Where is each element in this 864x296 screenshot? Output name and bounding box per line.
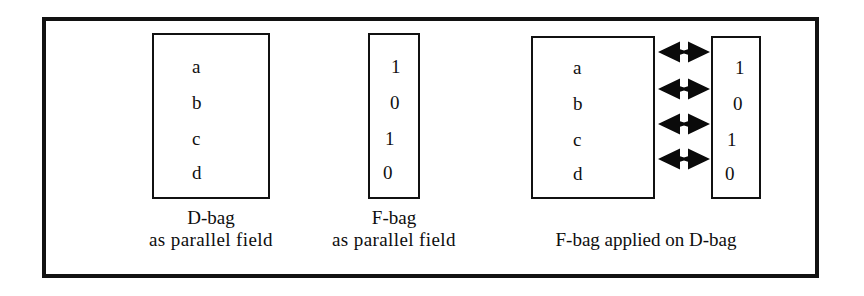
double-headed-arrow-0: [658, 41, 710, 63]
applied-f-bag-item-2: 1: [727, 130, 737, 149]
d-bag-box: a b c d: [152, 33, 270, 199]
double-headed-arrow-2: [658, 113, 710, 135]
applied-caption: F-bag applied on D-bag: [501, 229, 791, 251]
d-bag-item-1: b: [192, 93, 202, 112]
d-bag-item-0: a: [192, 57, 200, 76]
f-bag-item-2: 1: [385, 129, 395, 148]
applied-f-bag-item-1: 0: [733, 94, 743, 113]
applied-f-bag-box: 1 0 1 0: [711, 36, 761, 199]
applied-f-bag-item-0: 1: [735, 58, 745, 77]
double-headed-arrow-3: [658, 148, 710, 170]
applied-d-bag-item-2: c: [573, 130, 581, 149]
applied-d-bag-item-0: a: [573, 58, 581, 77]
f-bag-caption: F-bag as parallel field: [285, 207, 503, 251]
double-headed-arrow-icon: [658, 113, 710, 135]
f-bag-caption-line-2: as parallel field: [285, 229, 503, 251]
applied-d-bag-item-3: d: [573, 164, 583, 183]
double-headed-arrow-icon: [658, 41, 710, 63]
f-bag-item-0: 1: [391, 57, 401, 76]
f-bag-item-3: 0: [383, 163, 393, 182]
double-headed-arrow-1: [658, 78, 710, 100]
d-bag-item-3: d: [192, 163, 202, 182]
applied-d-bag-box: a b c d: [531, 36, 655, 199]
double-headed-arrow-icon: [658, 148, 710, 170]
applied-caption-line-1: F-bag applied on D-bag: [501, 229, 791, 251]
f-bag-caption-line-1: F-bag: [285, 207, 503, 229]
figure-frame: a b c d D-bag as parallel field 1 0 1 0 …: [42, 17, 819, 278]
applied-d-bag-item-1: b: [573, 94, 583, 113]
f-bag-item-1: 0: [390, 93, 400, 112]
d-bag-item-2: c: [192, 129, 200, 148]
applied-f-bag-item-3: 0: [725, 164, 735, 183]
double-headed-arrow-icon: [658, 78, 710, 100]
f-bag-box: 1 0 1 0: [368, 33, 420, 199]
